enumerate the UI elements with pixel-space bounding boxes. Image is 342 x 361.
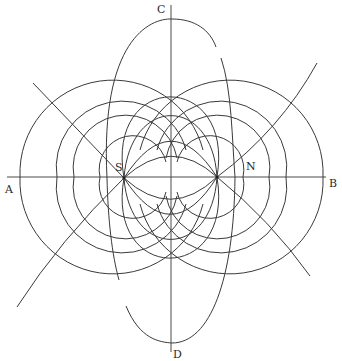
lines-of-force — [17, 19, 317, 343]
label-a: A — [4, 183, 14, 196]
field-lines-diagram: C D A B S N — [0, 0, 342, 361]
south-pole-dot — [122, 176, 125, 179]
label-s: S — [115, 161, 123, 174]
label-d: D — [173, 348, 182, 361]
label-n: N — [246, 160, 256, 173]
north-pole-dot — [215, 175, 218, 178]
label-b: B — [329, 177, 337, 190]
label-c: C — [157, 3, 165, 16]
